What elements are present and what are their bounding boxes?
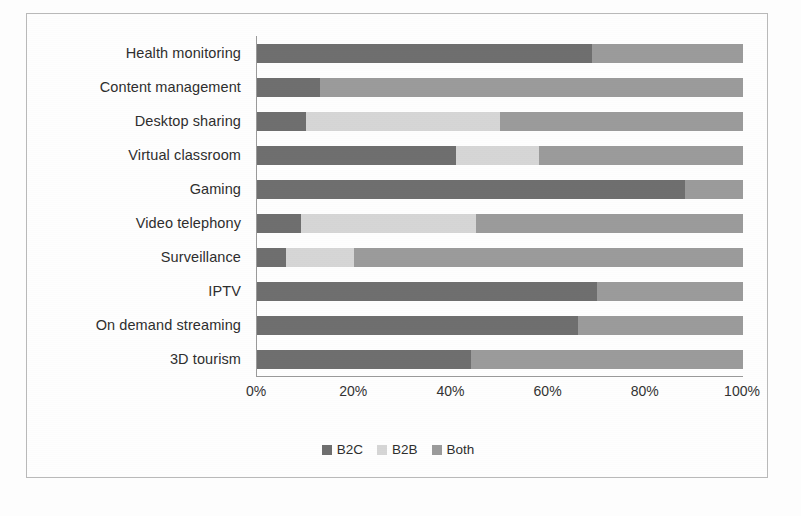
- bar-segment-b2b[interactable]: [301, 214, 476, 233]
- bar-row[interactable]: [257, 282, 743, 301]
- bar-segment-b2b[interactable]: [286, 248, 354, 267]
- bar-segment-b2c[interactable]: [257, 180, 685, 199]
- bar-segment-both[interactable]: [476, 214, 743, 233]
- bar-segment-both[interactable]: [597, 282, 743, 301]
- bar-segment-b2c[interactable]: [257, 44, 592, 63]
- y-axis-label: Health monitoring: [126, 42, 241, 64]
- x-axis-tick: 80%: [631, 383, 659, 399]
- legend-item[interactable]: Both: [432, 442, 475, 457]
- x-axis-tick: 20%: [339, 383, 367, 399]
- bar-row[interactable]: [257, 350, 743, 369]
- x-axis-tick: 100%: [724, 383, 760, 399]
- bar-segment-both[interactable]: [320, 78, 743, 97]
- bar-row[interactable]: [257, 146, 743, 165]
- legend-swatch-icon: [322, 445, 332, 455]
- legend-swatch-icon: [432, 445, 442, 455]
- legend-swatch-icon: [377, 445, 387, 455]
- legend-item[interactable]: B2B: [377, 442, 418, 457]
- bar-segment-both[interactable]: [685, 180, 743, 199]
- chart-legend: B2CB2BBoth: [27, 442, 769, 457]
- x-axis-tick-labels: 0%20%40%60%80%100%: [256, 383, 742, 403]
- bar-row[interactable]: [257, 112, 743, 131]
- x-axis-tick: 40%: [436, 383, 464, 399]
- legend-item[interactable]: B2C: [322, 442, 363, 457]
- bar-segment-both[interactable]: [500, 112, 743, 131]
- legend-label: B2C: [337, 442, 363, 457]
- page-root: Health monitoringContent managementDeskt…: [0, 0, 801, 516]
- bar-segment-b2c[interactable]: [257, 350, 471, 369]
- bar-row[interactable]: [257, 180, 743, 199]
- y-axis-label: Content management: [100, 76, 241, 98]
- y-axis-label: Desktop sharing: [135, 110, 241, 132]
- legend-label: B2B: [392, 442, 418, 457]
- bar-segment-b2c[interactable]: [257, 282, 597, 301]
- plot-area: [256, 36, 743, 377]
- bar-row[interactable]: [257, 214, 743, 233]
- bar-row[interactable]: [257, 248, 743, 267]
- bar-segment-b2b[interactable]: [306, 112, 500, 131]
- bar-segment-b2c[interactable]: [257, 248, 286, 267]
- bar-segment-both[interactable]: [539, 146, 743, 165]
- y-axis-label: Video telephony: [136, 212, 241, 234]
- chart-plot-wrapper: Health monitoringContent managementDeskt…: [27, 14, 769, 479]
- y-axis-label: Virtual classroom: [128, 144, 241, 166]
- bar-segment-b2c[interactable]: [257, 316, 578, 335]
- legend-label: Both: [447, 442, 475, 457]
- y-axis-label: 3D tourism: [170, 348, 241, 370]
- y-axis-label: Surveillance: [161, 246, 241, 268]
- y-axis-label: IPTV: [208, 280, 241, 302]
- bar-segment-both[interactable]: [354, 248, 743, 267]
- bar-row[interactable]: [257, 316, 743, 335]
- bar-row[interactable]: [257, 44, 743, 63]
- bar-segment-both[interactable]: [471, 350, 743, 369]
- bar-row[interactable]: [257, 78, 743, 97]
- bar-segment-both[interactable]: [578, 316, 743, 335]
- bar-segment-b2b[interactable]: [456, 146, 539, 165]
- bar-segment-b2c[interactable]: [257, 214, 301, 233]
- chart-frame: Health monitoringContent managementDeskt…: [26, 13, 768, 478]
- y-axis-label: On demand streaming: [96, 314, 241, 336]
- y-axis-category-labels: Health monitoringContent managementDeskt…: [27, 36, 249, 376]
- bar-segment-b2c[interactable]: [257, 78, 320, 97]
- bar-segment-b2c[interactable]: [257, 112, 306, 131]
- x-axis-tick: 0%: [246, 383, 266, 399]
- y-axis-label: Gaming: [190, 178, 241, 200]
- bar-segment-b2c[interactable]: [257, 146, 456, 165]
- bar-segment-both[interactable]: [592, 44, 743, 63]
- x-axis-tick: 60%: [534, 383, 562, 399]
